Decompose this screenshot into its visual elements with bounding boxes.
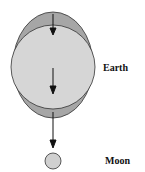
earth-label: Earth xyxy=(103,62,128,73)
earth-circle xyxy=(11,25,95,109)
moon-label: Moon xyxy=(105,155,130,166)
tides-diagram xyxy=(0,0,145,172)
moon-circle xyxy=(45,153,61,169)
